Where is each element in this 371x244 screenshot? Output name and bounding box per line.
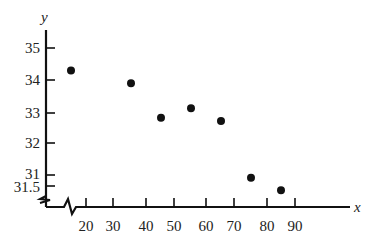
x-tick-30: 30 [106,218,121,234]
data-point [157,114,165,122]
x-tick-80: 80 [260,218,275,234]
x-axis-label: x [353,199,361,215]
x-ticks: 20 30 40 50 60 70 80 90 [79,198,303,234]
y-axis-break-icon [40,196,50,203]
x-tick-20: 20 [79,218,94,234]
data-point [277,186,285,194]
x-tick-90: 90 [288,218,303,234]
scatter-chart: y 35 34 33 32 31 31.5 x 20 30 40 50 60 7… [0,0,371,244]
data-point [247,174,255,182]
x-tick-50: 50 [167,218,182,234]
data-point [67,67,75,75]
x-tick-70: 70 [227,218,242,234]
y-ticks: 35 34 33 32 31 31.5 [14,40,55,195]
x-tick-60: 60 [199,218,214,234]
y-tick-35: 35 [25,40,40,56]
y-tick-32: 32 [25,135,40,151]
y-axis-label: y [39,9,48,25]
y-tick-33: 33 [25,105,40,121]
data-points [67,67,285,195]
data-point [187,104,195,112]
x-tick-40: 40 [139,218,154,234]
y-tick-34: 34 [25,72,41,88]
data-point [127,79,135,87]
data-point [217,117,225,125]
x-axis-line [46,199,350,214]
y-tick-31-5: 31.5 [14,179,40,195]
